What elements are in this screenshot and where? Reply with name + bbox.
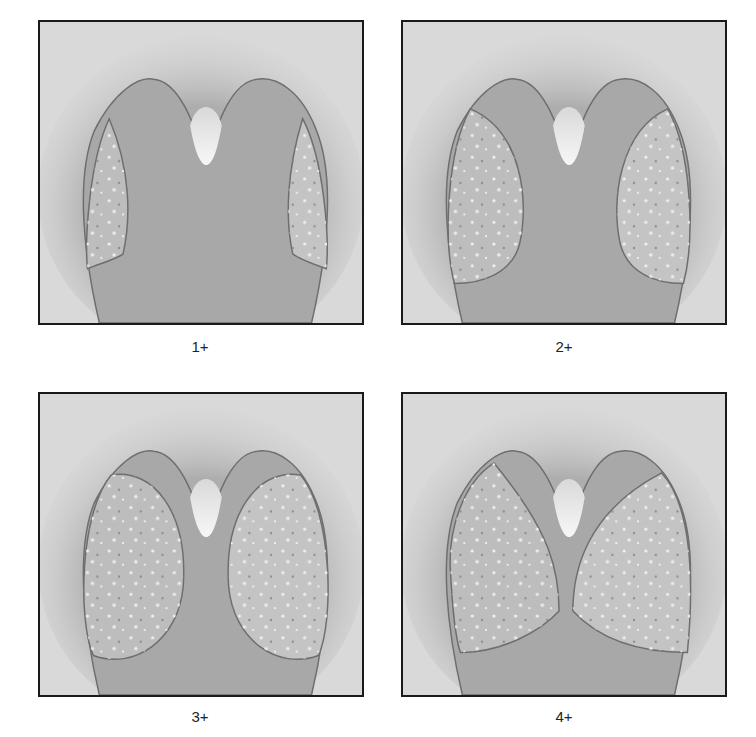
panel-grade-1	[38, 20, 364, 325]
grade-label-1: 1+	[160, 338, 240, 355]
grade-label-2: 2+	[524, 338, 604, 355]
grade-label-3: 3+	[160, 708, 240, 725]
panel-grade-2	[401, 20, 727, 325]
tonsil-diagram-4	[403, 394, 725, 695]
tonsil-diagram-3	[40, 394, 362, 695]
tonsil-diagram-2	[403, 22, 725, 323]
panel-grade-3	[38, 392, 364, 697]
grade-label-4: 4+	[524, 708, 604, 725]
tonsil-diagram-1	[40, 22, 362, 323]
panel-grade-4	[401, 392, 727, 697]
